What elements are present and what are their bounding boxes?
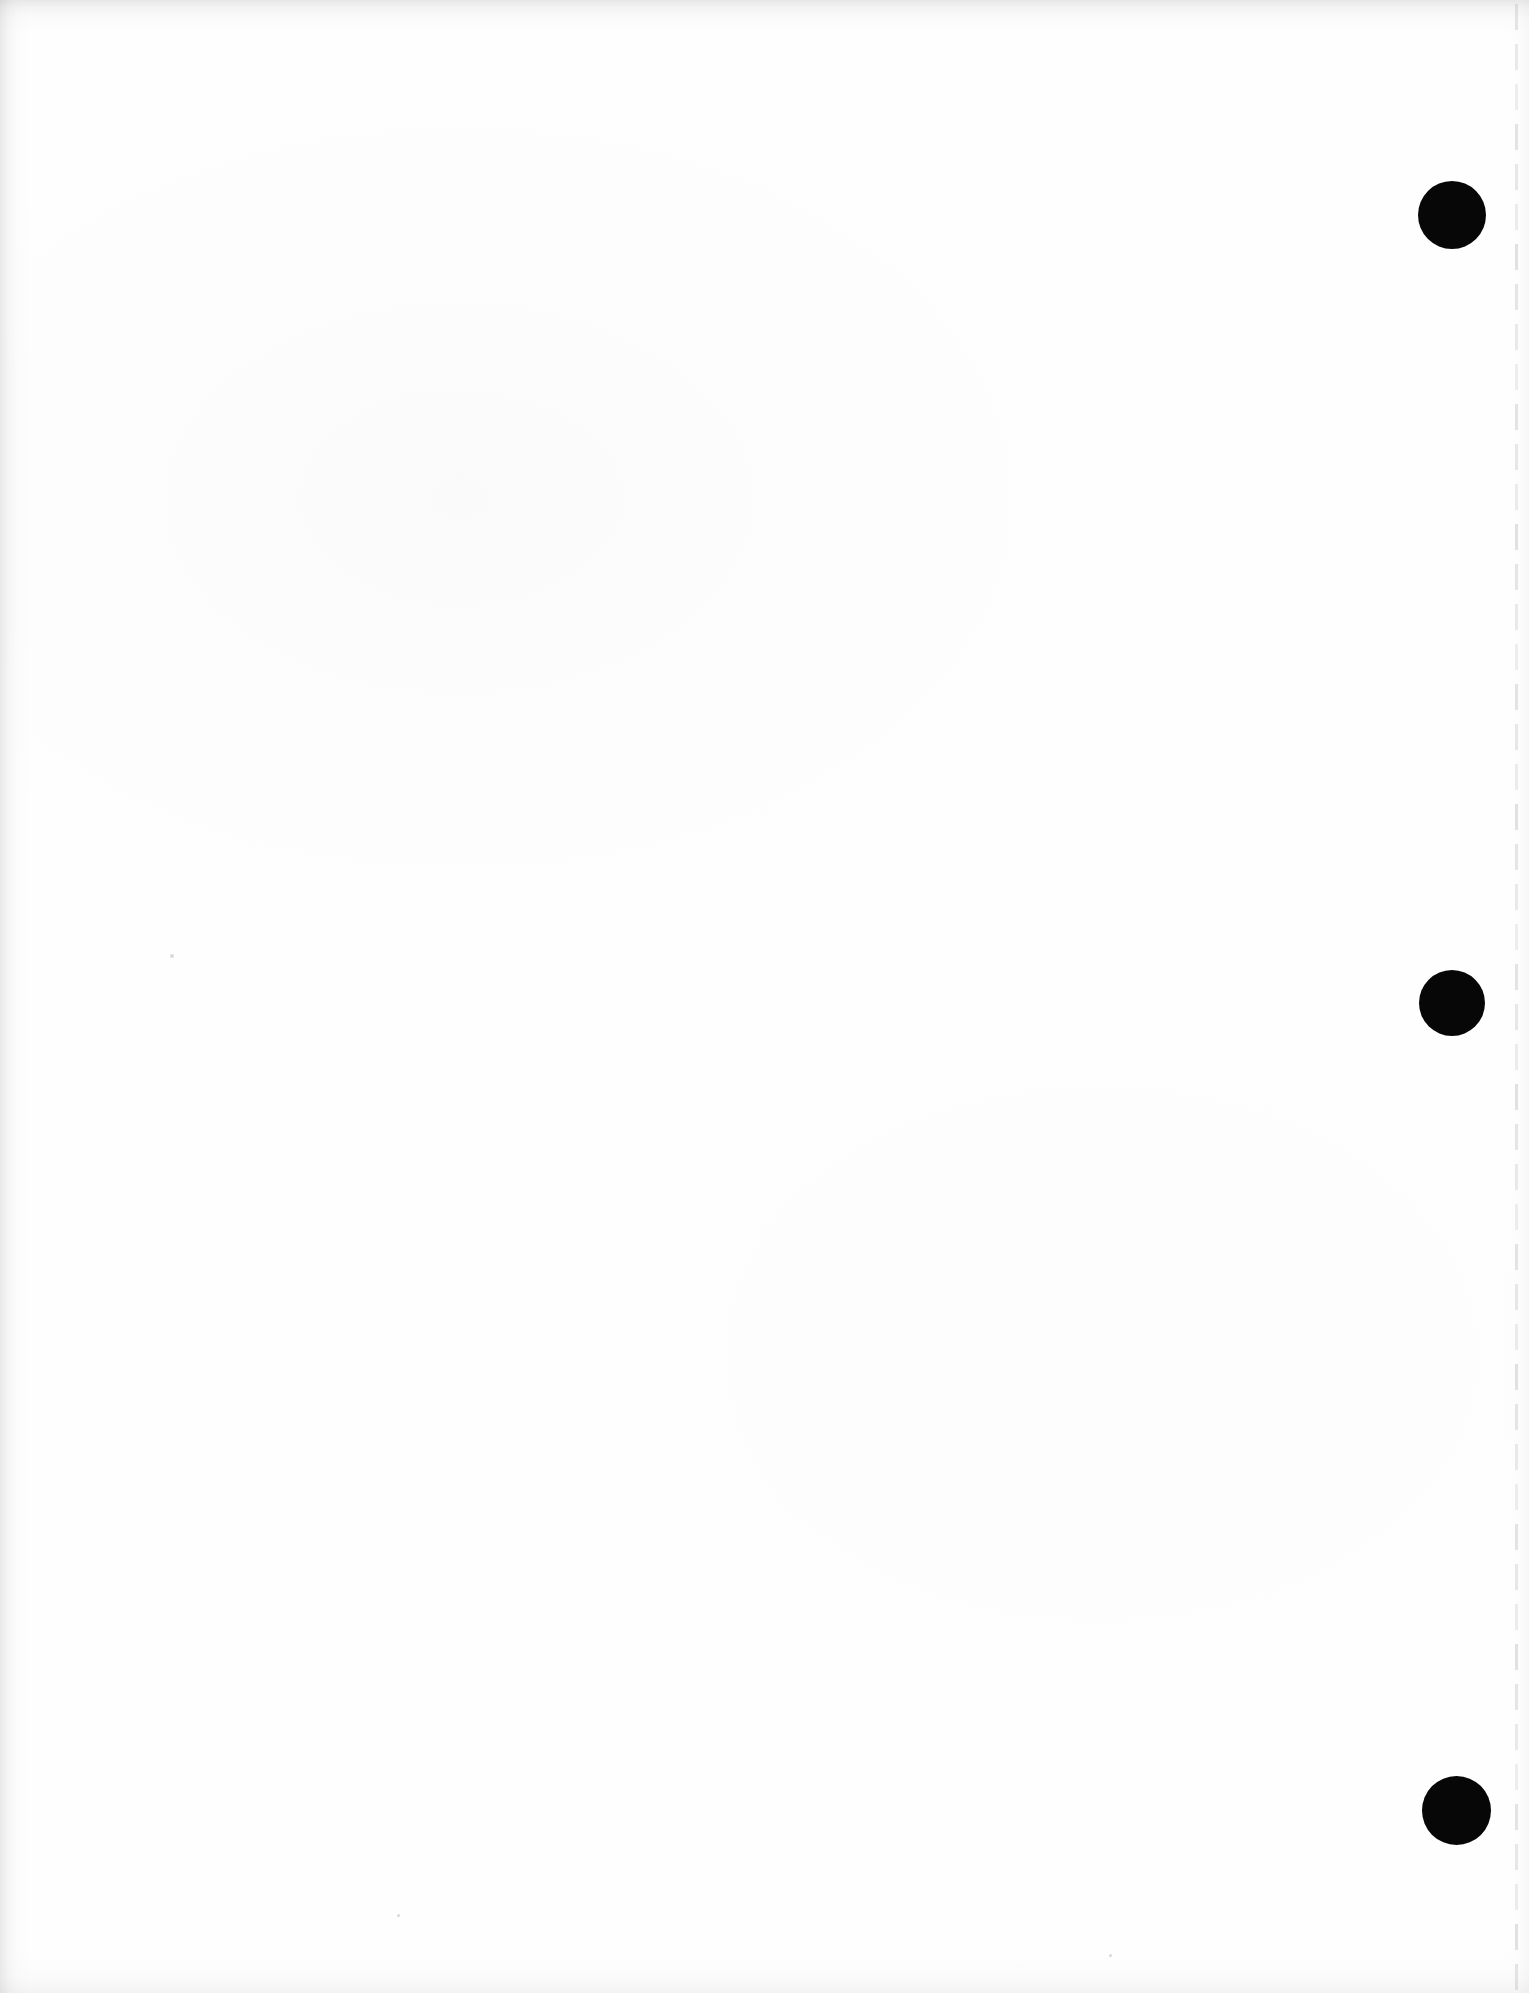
margin-rule-dash	[1515, 1844, 1518, 1870]
margin-rule-dash	[1515, 44, 1518, 70]
scan-speck	[1109, 1954, 1112, 1957]
margin-rule-dash	[1515, 924, 1518, 950]
margin-rule-dash	[1515, 204, 1518, 230]
margin-rule-dash	[1515, 1764, 1518, 1790]
margin-rule-dash	[1515, 1244, 1518, 1270]
margin-rule-dash	[1515, 1924, 1518, 1950]
hole-punch-middle-icon	[1419, 970, 1485, 1036]
margin-rule-dash	[1515, 804, 1518, 830]
margin-rule-dash	[1515, 1604, 1518, 1630]
margin-rule-dash	[1515, 324, 1518, 350]
margin-rule-dash	[1515, 764, 1518, 790]
margin-rule-dash	[1515, 1804, 1518, 1830]
margin-rule-dash	[1515, 604, 1518, 630]
margin-rule-dash	[1515, 1364, 1518, 1390]
margin-rule-dash	[1515, 1884, 1518, 1910]
margin-rule-dash	[1515, 244, 1518, 270]
margin-rule-dash	[1515, 1524, 1518, 1550]
scan-shadow-left-edge	[0, 0, 30, 1993]
margin-rule-dash	[1515, 844, 1518, 870]
margin-rule-dash	[1515, 84, 1518, 110]
margin-rule-dash	[1515, 444, 1518, 470]
scanned-page	[0, 0, 1529, 1993]
margin-rule-dash	[1515, 1684, 1518, 1710]
paper-surface	[0, 0, 1529, 1993]
margin-rule-dash	[1515, 964, 1518, 990]
scan-shadow-top-edge	[0, 0, 1529, 34]
scan-speck	[170, 954, 174, 958]
margin-rule-dash	[1515, 1124, 1518, 1150]
margin-rule-dash	[1515, 1404, 1518, 1430]
margin-rule-dash	[1515, 484, 1518, 510]
margin-rule-dash	[1515, 1324, 1518, 1350]
dashed-margin-rule	[1515, 0, 1518, 1993]
margin-rule-dash	[1515, 1564, 1518, 1590]
hole-punch-bottom-icon	[1422, 1776, 1491, 1845]
scan-shadow-bottom-edge	[0, 1953, 1529, 1993]
margin-rule-dash	[1515, 1284, 1518, 1310]
margin-rule-dash	[1515, 1444, 1518, 1470]
margin-rule-dash	[1515, 364, 1518, 390]
margin-rule-dash	[1515, 884, 1518, 910]
scan-shadow-right-edge	[1507, 0, 1529, 1993]
scan-speck	[397, 1914, 400, 1917]
margin-rule-dash	[1515, 1004, 1518, 1030]
margin-rule-dash	[1515, 1964, 1518, 1990]
margin-rule-dash	[1515, 124, 1518, 150]
margin-rule-dash	[1515, 724, 1518, 750]
margin-rule-dash	[1515, 684, 1518, 710]
margin-rule-dash	[1515, 1084, 1518, 1110]
margin-rule-dash	[1515, 4, 1518, 30]
margin-rule-dash	[1515, 524, 1518, 550]
margin-rule-dash	[1515, 1204, 1518, 1230]
margin-rule-dash	[1515, 1724, 1518, 1750]
margin-rule-dash	[1515, 644, 1518, 670]
margin-rule-dash	[1515, 1044, 1518, 1070]
margin-rule-dash	[1515, 1484, 1518, 1510]
margin-rule-dash	[1515, 1644, 1518, 1670]
margin-rule-dash	[1515, 164, 1518, 190]
margin-rule-dash	[1515, 404, 1518, 430]
hole-punch-top-icon	[1418, 181, 1486, 249]
margin-rule-dash	[1515, 284, 1518, 310]
margin-rule-dash	[1515, 1164, 1518, 1190]
margin-rule-dash	[1515, 564, 1518, 590]
